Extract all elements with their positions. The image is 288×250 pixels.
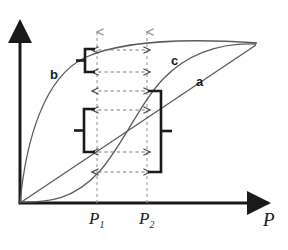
- tick-label-p2-sub: 2: [149, 219, 154, 230]
- bracket-c-range: [148, 91, 161, 172]
- figure-canvas: b c a P1 P2 P: [0, 0, 288, 250]
- tick-label-p2: P2: [139, 210, 154, 230]
- tick-label-p1-base: P: [89, 209, 99, 228]
- tick-label-p2-base: P: [139, 209, 149, 228]
- curve-label-b: b: [50, 68, 58, 81]
- curves: [20, 41, 257, 203]
- axes: [19, 22, 269, 203]
- x-axis-label: P: [263, 210, 275, 229]
- bracket-b-range: [85, 49, 95, 72]
- tick-label-p1-sub: 1: [99, 219, 104, 230]
- curve-label-c: c: [171, 54, 178, 67]
- measure-arrows: [92, 50, 150, 172]
- vertical-guides: [97, 32, 147, 203]
- bracket-a-range: [84, 109, 95, 152]
- curve-label-a: a: [196, 75, 203, 88]
- tick-label-p1: P1: [89, 210, 104, 230]
